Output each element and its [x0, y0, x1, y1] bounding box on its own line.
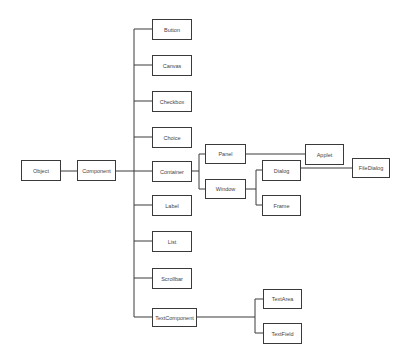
node-list: List	[152, 231, 192, 252]
node-dialog: Dialog	[262, 160, 301, 181]
node-filedialog: FileDialog	[352, 158, 390, 178]
node-canvas: Canvas	[152, 55, 192, 76]
node-scrollbar: Scrollbar	[152, 268, 192, 289]
node-label: Label	[152, 195, 192, 216]
node-applet: Applet	[305, 144, 344, 165]
node-choice: Choice	[152, 127, 192, 148]
node-textcomponent: TextComponent	[152, 308, 197, 327]
class-hierarchy-diagram: Object Component Button Canvas Checkbox …	[0, 0, 409, 363]
node-container: Container	[152, 161, 192, 182]
node-window: Window	[205, 179, 246, 199]
node-object: Object	[21, 160, 61, 181]
node-checkbox: Checkbox	[152, 91, 192, 112]
node-panel: Panel	[205, 144, 246, 164]
node-component: Component	[77, 160, 116, 181]
node-textfield: TextField	[263, 323, 302, 344]
node-button: Button	[152, 19, 192, 40]
node-frame: Frame	[262, 195, 301, 216]
node-textarea: TextArea	[263, 289, 302, 309]
